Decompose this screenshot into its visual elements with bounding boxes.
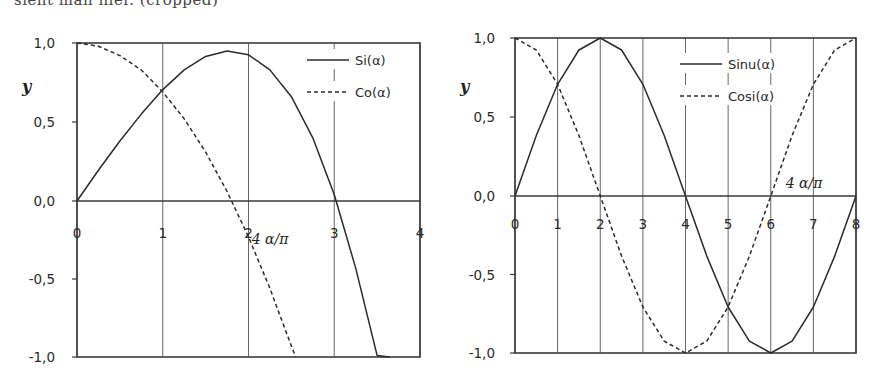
y-axis-title: y	[21, 77, 33, 96]
x-tick-label: 8	[852, 216, 861, 232]
y-tick-label: -1,0	[469, 345, 495, 361]
x-tick-label: 2	[596, 216, 605, 232]
x-tick-label: 6	[766, 216, 775, 232]
x-tick-label: 4	[681, 216, 690, 232]
y-tick-label: 0,0	[474, 188, 495, 204]
legend-label: Cosi(α)	[728, 89, 774, 104]
x-tick-label: 1	[553, 216, 562, 232]
x-tick-label: 7	[809, 216, 818, 232]
x-axis-title: 4 α/π	[785, 175, 824, 191]
legend-label: Sinu(α)	[728, 57, 775, 72]
y-tick-label: 0,5	[474, 109, 495, 125]
x-tick-label: 5	[724, 216, 733, 232]
y-tick-label: 1,0	[474, 30, 495, 46]
legend-label: Si(α)	[355, 53, 386, 68]
y-tick-label: -1,0	[29, 349, 55, 365]
right-chart: 1,00,50,0-0,5-1,0012345678y4 α/πSinu(α)C…	[459, 30, 860, 361]
charts-canvas: 1,00,50,0-0,5-1,001234y4 α/πSi(α)Co(α) 1…	[0, 0, 885, 384]
y-tick-label: 0,5	[34, 114, 55, 130]
left-chart: 1,00,50,0-0,5-1,001234y4 α/πSi(α)Co(α)	[21, 35, 424, 365]
x-tick-label: 4	[416, 225, 425, 241]
y-tick-label: 0,0	[34, 193, 55, 209]
y-tick-label: -0,5	[469, 267, 495, 283]
legend-label: Co(α)	[355, 85, 391, 100]
x-tick-label: 0	[511, 216, 520, 232]
x-tick-label: 3	[639, 216, 648, 232]
x-axis-title: 4 α/π	[251, 231, 290, 247]
y-axis-title: y	[459, 77, 471, 96]
y-tick-label: -0,5	[29, 271, 55, 287]
x-tick-label: 3	[330, 225, 339, 241]
series-line-dashed	[77, 43, 296, 357]
x-tick-label: 1	[158, 225, 167, 241]
y-tick-label: 1,0	[34, 35, 55, 51]
x-tick-label: 0	[73, 225, 82, 241]
